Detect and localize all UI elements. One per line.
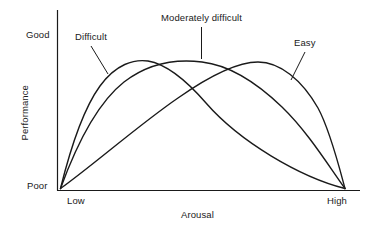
leader-line-difficult (91, 46, 108, 74)
chart-figure: Good Poor Low High Arousal Performance D… (0, 0, 382, 232)
x-axis-tick-high: High (327, 196, 347, 206)
x-axis-tick-low: Low (67, 196, 85, 206)
arousal-performance-plot (0, 0, 382, 232)
y-axis-title: Performance (20, 76, 30, 150)
y-axis-tick-poor: Poor (27, 181, 47, 191)
annotation-moderately-difficult: Moderately difficult (161, 13, 242, 23)
annotation-difficult: Difficult (75, 32, 107, 42)
x-axis-title: Arousal (181, 210, 214, 220)
y-axis-tick-good: Good (26, 30, 50, 40)
leader-line-easy (291, 52, 305, 80)
curve-moderately-difficult (61, 61, 346, 188)
curve-difficult (61, 61, 346, 189)
annotation-easy: Easy (294, 38, 316, 48)
